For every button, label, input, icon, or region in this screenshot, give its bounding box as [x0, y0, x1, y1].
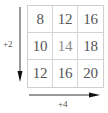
grid-cell-r3c3: 20: [78, 60, 103, 87]
grid-cell-r1c3: 16: [78, 6, 103, 33]
horizontal-step-label: +4: [58, 99, 68, 109]
grid-cell-r2c3: 18: [78, 33, 103, 60]
right-arrow-icon: [29, 91, 100, 99]
number-grid: 8 12 16 10 14 18 12 16 20: [27, 5, 104, 88]
grid-cell-r2c1: 10: [28, 33, 53, 60]
grid-cell-r3c1: 12: [28, 60, 53, 87]
grid-cell-r2c2: 14: [53, 33, 78, 60]
down-arrow-icon: [16, 7, 24, 83]
grid-cell-r1c1: 8: [28, 6, 53, 33]
grid-cell-r3c2: 16: [53, 60, 78, 87]
grid-cell-r1c2: 12: [53, 6, 78, 33]
vertical-step-label: +2: [3, 39, 13, 49]
